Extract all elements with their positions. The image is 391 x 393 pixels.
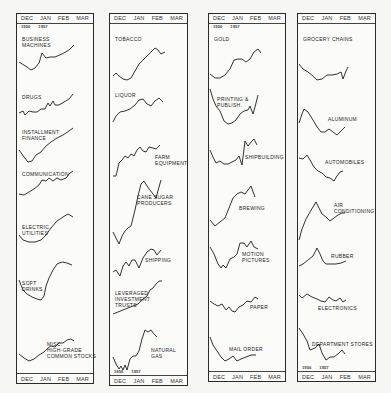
- series-lines: [298, 14, 377, 383]
- series-label: COMMUNICATION: [22, 171, 69, 177]
- series-lines: [17, 14, 95, 385]
- series-label: MOTION PICTURES: [242, 251, 270, 263]
- series-label: SHIPPING: [145, 257, 171, 263]
- series-line: [19, 45, 74, 70]
- series-label: SOFT DRINKS: [22, 280, 43, 292]
- chart-panel-3: DECJANFEBMAR19561957DECJANFEBMARGOLDPRIN…: [208, 13, 286, 382]
- chart-panel-2: 19561957DECJANFEBMARDECJANFEBMARTOBACCOL…: [109, 13, 188, 386]
- series-line: [113, 98, 163, 122]
- series-label: BUSINESS MACHINES: [22, 36, 51, 48]
- series-label: MISC. HIGH-GRADE COMMON STOCKS: [47, 341, 96, 359]
- series-label: AIR CONDITIONING: [334, 202, 375, 214]
- series-label: NATURAL GAS: [151, 347, 176, 359]
- series-label: GROCERY CHAINS: [303, 36, 353, 42]
- series-line: [299, 109, 345, 135]
- series-label: RUBBER: [331, 253, 354, 259]
- series-label: CANE SUGAR PRODUCERS: [137, 194, 173, 206]
- series-label: FARM EQUIPMENT: [155, 154, 187, 166]
- series-label: ELECTRONICS: [318, 305, 357, 311]
- series-label: ALUMINUM: [328, 116, 357, 122]
- series-line: [210, 49, 261, 78]
- series-label: LEVERAGED INVESTMENT TRUSTS: [115, 290, 150, 308]
- chart-panel-1: DECJANFEBMAR19561957DECJANFEBMARBUSINESS…: [16, 13, 94, 384]
- series-label: LIQUOR: [115, 92, 136, 98]
- series-line: [210, 139, 257, 165]
- series-label: SHIPBUILDING: [245, 154, 284, 160]
- chart-panel-4: 19561957DECJANFEBMARDECJANFEBMARGROCERY …: [297, 13, 376, 382]
- series-label: AUTOMOBILES: [325, 159, 364, 165]
- series-line: [113, 48, 165, 80]
- series-label: PAPER: [250, 304, 268, 310]
- series-line: [113, 145, 160, 176]
- series-line: [299, 64, 348, 80]
- series-line: [113, 180, 161, 244]
- series-lines: [209, 14, 287, 383]
- series-line: [299, 294, 346, 302]
- series-label: MAIL ORDER: [229, 346, 263, 352]
- series-label: BREWING: [239, 205, 265, 211]
- series-label: INSTALLMENT FINANCE: [22, 129, 59, 141]
- series-label: ELECTRIC UTILITIES: [22, 224, 49, 236]
- series-label: PRINTING & PUBLISH.: [217, 96, 249, 108]
- series-label: TOBACCO: [115, 36, 142, 42]
- series-label: DEPARTMENT STORES: [312, 341, 373, 347]
- series-label: GOLD: [214, 36, 229, 42]
- series-label: DRUGS: [22, 94, 42, 100]
